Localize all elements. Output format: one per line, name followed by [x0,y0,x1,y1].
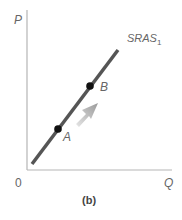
y-axis-label: P [14,14,22,26]
point-a [54,125,62,133]
point-a-label: A [63,131,71,143]
sras-curve [32,50,118,164]
curve-subscript: 1 [157,38,161,47]
curve-label: SRAS1 [127,33,161,47]
origin-label: 0 [15,177,22,189]
movement-arrow-icon [76,103,98,127]
curve-name: SRAS [127,32,157,44]
x-axis-label: Q [164,177,173,189]
figure-caption: (b) [82,194,96,206]
point-b-label: B [100,81,108,93]
point-b [86,82,94,90]
